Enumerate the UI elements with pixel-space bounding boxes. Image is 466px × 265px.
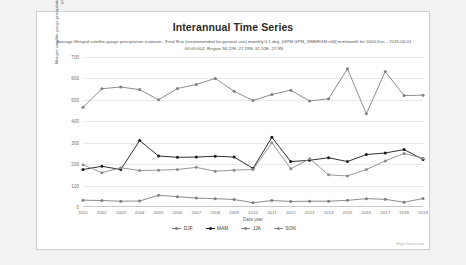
data-point[interactable]	[233, 198, 236, 201]
data-point[interactable]	[195, 166, 198, 169]
data-point[interactable]	[195, 83, 198, 86]
x-axis-tick-label: 2006	[173, 210, 183, 215]
x-axis-title: Data year	[83, 217, 423, 222]
data-point[interactable]	[289, 200, 292, 203]
data-point[interactable]	[327, 173, 330, 176]
data-point[interactable]	[384, 152, 387, 155]
data-point[interactable]	[176, 195, 179, 198]
plot-wrapper: Merged satellite-gauge precipitation est…	[59, 57, 423, 217]
data-point[interactable]	[176, 156, 179, 159]
x-axis-tick-label: 2008	[210, 210, 220, 215]
data-point[interactable]	[270, 199, 273, 202]
legend-item-mam[interactable]: MAM	[206, 226, 229, 231]
data-point[interactable]	[119, 166, 122, 169]
data-point[interactable]	[82, 199, 85, 202]
legend-label: SON	[285, 226, 295, 231]
data-point[interactable]	[403, 148, 406, 151]
series-son	[82, 141, 425, 177]
data-point[interactable]	[100, 165, 103, 168]
x-axis-tick-label: 2012	[286, 210, 296, 215]
data-point[interactable]	[403, 152, 406, 155]
data-point[interactable]	[365, 168, 368, 171]
data-point[interactable]	[233, 90, 236, 93]
x-axis-tick-label: 2009	[229, 210, 239, 215]
legend-swatch-icon	[274, 226, 283, 231]
data-point[interactable]	[214, 155, 217, 158]
data-point[interactable]	[270, 136, 273, 139]
y-axis-tick-label: 200	[71, 162, 79, 167]
data-point[interactable]	[289, 89, 292, 92]
data-point[interactable]	[346, 199, 349, 202]
data-point[interactable]	[138, 139, 141, 142]
data-point[interactable]	[384, 159, 387, 162]
data-point[interactable]	[403, 201, 406, 204]
data-point[interactable]	[365, 112, 368, 115]
data-point[interactable]	[384, 70, 387, 73]
data-point[interactable]	[138, 88, 141, 91]
data-point[interactable]	[252, 99, 255, 102]
series-line	[83, 69, 423, 114]
data-point[interactable]	[346, 67, 349, 70]
legend-label: DJF	[184, 226, 193, 231]
data-point[interactable]	[327, 97, 330, 100]
data-point[interactable]	[252, 168, 255, 171]
data-point[interactable]	[176, 168, 179, 171]
data-point[interactable]	[138, 169, 141, 172]
x-axis-tick-label: 2018	[399, 210, 409, 215]
data-point[interactable]	[119, 200, 122, 203]
data-point[interactable]	[233, 156, 236, 159]
data-point[interactable]	[214, 77, 217, 80]
data-point[interactable]	[100, 199, 103, 202]
data-point[interactable]	[403, 94, 406, 97]
data-point[interactable]	[365, 197, 368, 200]
data-point[interactable]	[157, 98, 160, 101]
x-axis-tick-label: 2011	[267, 210, 276, 215]
data-point[interactable]	[327, 200, 330, 203]
data-point[interactable]	[100, 171, 103, 174]
data-point[interactable]	[214, 170, 217, 173]
data-point[interactable]	[384, 198, 387, 201]
legend-item-djf[interactable]: DJF	[172, 226, 192, 231]
data-point[interactable]	[365, 153, 368, 156]
x-axis-tick-label: 2002	[97, 210, 107, 215]
series-layer	[83, 57, 423, 207]
data-point[interactable]	[100, 87, 103, 90]
legend-label: MAM	[217, 226, 228, 231]
data-point[interactable]	[138, 200, 141, 203]
plot-area: 0100200300400500600700 20012002200320042…	[83, 57, 423, 207]
data-point[interactable]	[308, 99, 311, 102]
data-point[interactable]	[233, 169, 236, 172]
data-point[interactable]	[289, 160, 292, 163]
data-point[interactable]	[252, 201, 255, 204]
data-point[interactable]	[346, 174, 349, 177]
y-axis-tick-label: 300	[71, 140, 79, 145]
data-point[interactable]	[308, 157, 311, 160]
x-axis-tick-label: 2010	[248, 210, 258, 215]
data-point[interactable]	[270, 141, 273, 144]
data-point[interactable]	[195, 156, 198, 159]
legend-swatch-icon	[206, 226, 215, 231]
data-point[interactable]	[422, 94, 425, 97]
data-point[interactable]	[157, 155, 160, 158]
data-point[interactable]	[176, 87, 179, 90]
chart-legend: DJFMAMJJASON	[37, 226, 431, 231]
data-point[interactable]	[119, 86, 122, 89]
data-point[interactable]	[157, 194, 160, 197]
data-point[interactable]	[157, 169, 160, 172]
data-point[interactable]	[270, 93, 273, 96]
data-point[interactable]	[214, 197, 217, 200]
data-point[interactable]	[422, 157, 425, 160]
data-point[interactable]	[422, 197, 425, 200]
data-point[interactable]	[195, 197, 198, 200]
data-point[interactable]	[346, 160, 349, 163]
data-point[interactable]	[82, 106, 85, 109]
data-point[interactable]	[327, 156, 330, 159]
data-point[interactable]	[289, 167, 292, 170]
data-point[interactable]	[82, 168, 85, 171]
legend-swatch-icon	[241, 226, 250, 231]
legend-item-jja[interactable]: JJA	[241, 226, 261, 231]
data-point[interactable]	[82, 163, 85, 166]
legend-item-son[interactable]: SON	[274, 226, 296, 231]
legend-label: JJA	[253, 226, 261, 231]
data-point[interactable]	[308, 200, 311, 203]
